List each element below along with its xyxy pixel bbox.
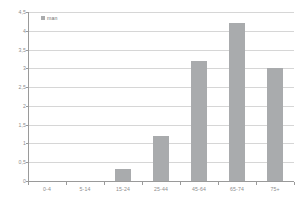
bar-slot[interactable] [142, 12, 180, 181]
x-tick-label: 75+ [256, 186, 294, 192]
bar-slot[interactable] [256, 12, 294, 181]
bar-slot[interactable] [218, 12, 256, 181]
y-tick-label: 2 [2, 103, 26, 109]
y-tick-label: 0 [2, 178, 26, 184]
legend: man [41, 15, 57, 21]
y-tick-label: 4,5 [2, 9, 26, 15]
bar-slot[interactable] [28, 12, 66, 181]
legend-label: man [47, 15, 57, 21]
x-tick-mark [142, 182, 143, 185]
x-tick-label: 25-44 [142, 186, 180, 192]
x-tick-mark [104, 182, 105, 185]
y-tick-label: 1,5 [2, 122, 26, 128]
y-tick-label: 3,5 [2, 47, 26, 53]
bar[interactable] [229, 23, 245, 181]
x-tick-label: 65-74 [218, 186, 256, 192]
bar-slot[interactable] [66, 12, 104, 181]
y-tick-label: 4 [2, 28, 26, 34]
bar-slot[interactable] [180, 12, 218, 181]
x-tick-label: 0-4 [28, 186, 66, 192]
bar-slot[interactable] [104, 12, 142, 181]
x-tick-mark [256, 182, 257, 185]
y-tick-label: 1 [2, 140, 26, 146]
bar[interactable] [267, 68, 283, 181]
x-tick-label: 5-14 [66, 186, 104, 192]
bar[interactable] [153, 136, 169, 181]
x-tick-label: 45-64 [180, 186, 218, 192]
plot-area [28, 12, 294, 182]
bar[interactable] [115, 169, 131, 181]
y-tick-label: 0,5 [2, 159, 26, 165]
bar[interactable] [191, 61, 207, 181]
bar-chart: 00,511,522,533,544,5 0-45-1415-2425-4445… [0, 0, 300, 214]
x-tick-mark [28, 182, 29, 185]
legend-swatch-icon [41, 16, 45, 20]
y-tick-label: 3 [2, 65, 26, 71]
x-tick-mark [66, 182, 67, 185]
x-tick-mark [180, 182, 181, 185]
bars-layer [28, 12, 294, 182]
x-tick-mark [294, 182, 295, 185]
y-tick-label: 2,5 [2, 84, 26, 90]
x-tick-label: 15-24 [104, 186, 142, 192]
x-tick-mark [218, 182, 219, 185]
